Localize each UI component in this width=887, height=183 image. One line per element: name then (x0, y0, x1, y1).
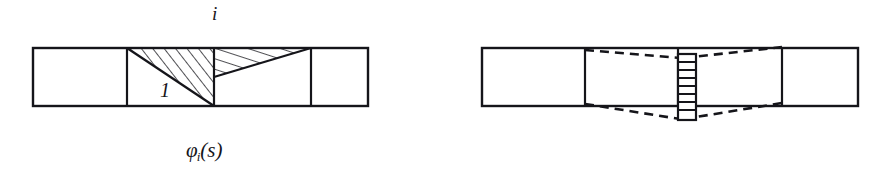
phi-diagram (0, 0, 450, 183)
phi-caption-args: (s) (200, 138, 222, 162)
psi-diagram (437, 0, 887, 183)
phi-amplitude-label: 1 (160, 80, 170, 100)
figure-root: i 1 φi(s) (0, 0, 887, 183)
psi-element-strip (482, 48, 858, 106)
panel-psi: k 1 1 ψk(s) (437, 0, 887, 183)
phi-caption-base: φ (186, 138, 198, 162)
phi-caption: φi(s) (186, 140, 222, 163)
psi-impulse-strip (678, 54, 696, 120)
psi-envelope-upper-left (585, 50, 680, 58)
phi-index-label: i (212, 4, 218, 23)
panel-phi: i 1 φi(s) (0, 0, 450, 183)
